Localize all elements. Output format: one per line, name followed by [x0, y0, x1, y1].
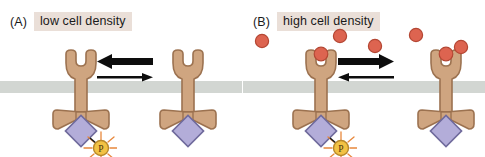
signal-molecule: [254, 33, 270, 49]
phosphate-label-b-left: P: [338, 144, 343, 154]
bound-signal-molecule: [314, 47, 328, 61]
phosphate-label-a-left: P: [98, 144, 103, 154]
signal-molecule: [408, 27, 424, 43]
arrow-minor-right: [97, 73, 153, 82]
equilibrium-arrows-a: [96, 53, 154, 83]
signal-molecule: [332, 28, 348, 44]
arrow-major-right: [338, 54, 394, 69]
figure-receptor-cell-density: (A) low cell density: [0, 0, 485, 157]
signal-molecule: [453, 39, 469, 55]
panel-low-cell-density: (A) low cell density: [0, 0, 242, 157]
receptor-a-right: [152, 0, 224, 157]
arrow-major-left: [97, 54, 153, 69]
receptor-b-right: [410, 0, 482, 157]
equilibrium-arrows-b: [337, 53, 395, 83]
bound-signal-molecule: [439, 47, 453, 61]
panel-a-letter: (A): [10, 15, 27, 29]
panel-b-letter: (B): [253, 15, 270, 29]
panel-high-cell-density: (B) high cell density: [243, 0, 485, 157]
signal-molecule: [367, 38, 383, 54]
arrow-minor-left: [338, 73, 394, 82]
